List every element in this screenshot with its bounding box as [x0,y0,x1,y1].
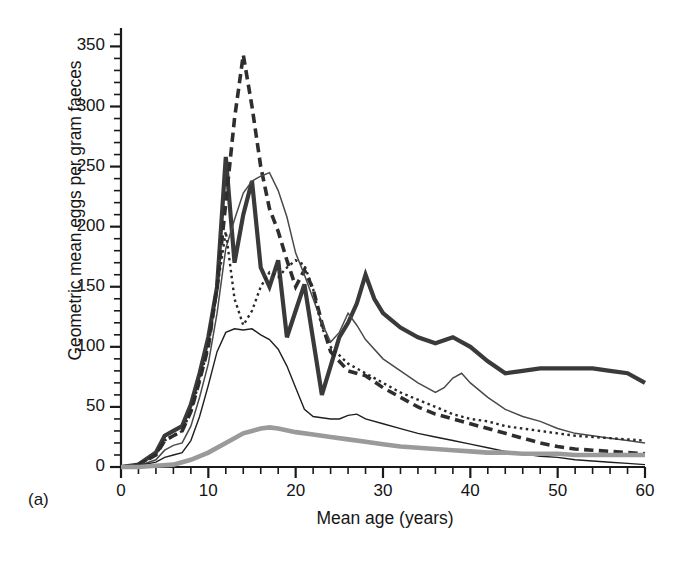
series-line-thin-solid-upper [121,173,645,467]
figure-panel-a: Geometric mean eggs per gram faeces Mean… [0,0,684,562]
series-line-thick-grey [121,427,645,467]
chart-plot-area [0,0,684,562]
series-line-heavy-dashed [121,55,645,467]
series-group [121,55,645,467]
series-line-thick-solid-dark [121,157,645,467]
